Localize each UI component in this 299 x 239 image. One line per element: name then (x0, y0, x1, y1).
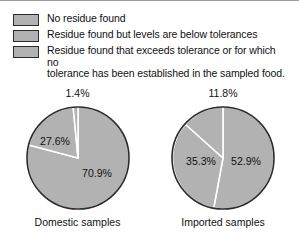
legend-swatch-below-tolerance-icon (13, 30, 39, 42)
pie-domestic-caption: Domestic samples (5, 216, 150, 228)
pie-chart-imported: 11.8% 52.9% 35.3% Imported samples (152, 87, 294, 228)
pie-chart-domestic: 1.4% 70.9% 27.6% Domestic samples (5, 87, 150, 228)
pie-imported-svg: 52.9% 35.3% (170, 105, 276, 211)
legend-label-below-tolerance: Residue found but levels are below toler… (47, 29, 257, 41)
pie-imported-caption: Imported samples (152, 216, 294, 228)
pie-imported-graphic: 52.9% 35.3% (170, 105, 276, 211)
pie-domestic-value-below-tolerance: 27.6% (40, 135, 70, 147)
pie-domestic-svg: 70.9% 27.6% (25, 105, 131, 211)
legend-label-no-residue: No residue found (47, 13, 125, 25)
pie-domestic-value-no-residue: 70.9% (82, 167, 112, 179)
pie-imported-label-exceeds: 11.8% (152, 87, 294, 100)
pie-domestic-label-exceeds: 1.4% (5, 87, 150, 100)
legend-swatch-exceeds-tolerance-icon (13, 46, 39, 58)
pie-domestic-graphic: 70.9% 27.6% (25, 105, 131, 211)
legend-item-exceeds-tolerance: Residue found that exceeds tolerance or … (13, 45, 289, 80)
legend: No residue found Residue found but level… (13, 13, 289, 83)
pie-imported-value-no-residue: 52.9% (231, 155, 261, 167)
legend-swatch-no-residue-icon (13, 14, 39, 26)
legend-item-no-residue: No residue found (13, 13, 289, 26)
legend-label-exceeds-tolerance: Residue found that exceeds tolerance or … (47, 45, 289, 80)
pie-imported-value-below-tolerance: 35.3% (186, 155, 216, 167)
pie-chart-figure: No residue found Residue found but level… (0, 0, 299, 239)
legend-item-below-tolerance: Residue found but levels are below toler… (13, 29, 289, 42)
